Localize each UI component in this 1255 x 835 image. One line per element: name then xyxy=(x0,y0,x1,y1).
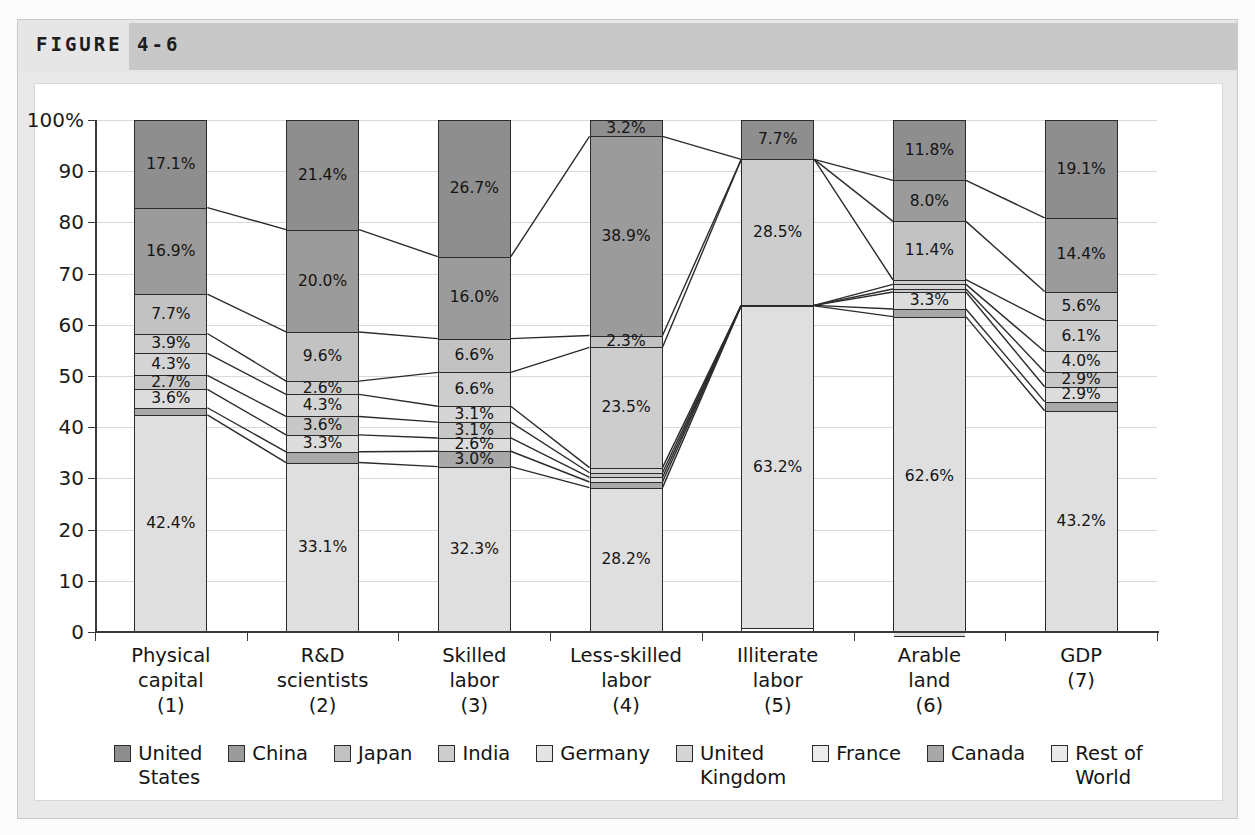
legend-item[interactable]: Japan xyxy=(334,742,412,766)
legend-item[interactable]: United States xyxy=(114,742,202,790)
bar-stack[interactable]: 17.1%16.9%7.7%3.9%4.3%2.7%3.6%42.4% xyxy=(134,120,207,632)
segment-connector-line xyxy=(966,180,1045,217)
bar-segment[interactable]: 3.6% xyxy=(287,416,358,434)
segment-connector-line xyxy=(359,451,438,452)
bar-segment[interactable]: 16.9% xyxy=(135,208,206,295)
bar-segment[interactable]: 20.0% xyxy=(287,230,358,332)
segment-connector-line xyxy=(207,375,286,416)
bar-segment[interactable]: 3.3% xyxy=(894,292,965,309)
bar-segment[interactable]: 3.3% xyxy=(287,435,358,452)
bar-segment[interactable]: 23.5% xyxy=(591,347,662,467)
bar-segment[interactable]: 5.6% xyxy=(1046,292,1117,321)
bar-segment[interactable] xyxy=(894,309,965,317)
bar-segment[interactable]: 4.0% xyxy=(1046,351,1117,371)
bar-segment-value-label: 11.4% xyxy=(905,243,954,259)
legend-swatch-icon xyxy=(676,745,693,762)
bar-segment[interactable]: 2.9% xyxy=(1046,387,1117,402)
bar-segment-value-label: 3.9% xyxy=(151,336,190,352)
bar-segment[interactable]: 7.7% xyxy=(742,120,813,159)
bar-segment[interactable]: 33.1% xyxy=(287,463,358,632)
bar-segment[interactable]: 6.6% xyxy=(439,372,510,406)
y-axis-tick xyxy=(88,274,95,275)
segment-connector-line xyxy=(511,136,590,256)
bar-segment[interactable]: 2.3% xyxy=(591,336,662,348)
x-axis-tick xyxy=(1005,633,1006,641)
y-axis-tick xyxy=(88,120,95,121)
legend-item[interactable]: Canada xyxy=(927,742,1025,766)
bar-stack[interactable]: 11.8%8.0%11.4%3.3%62.6% xyxy=(893,120,966,632)
segment-connector-line xyxy=(966,289,1045,372)
legend-swatch-icon xyxy=(114,745,131,762)
segment-connector-line xyxy=(511,467,590,488)
bar-segment[interactable]: 14.4% xyxy=(1046,218,1117,292)
segment-connector-line xyxy=(663,305,742,477)
bar-segment[interactable] xyxy=(135,408,206,415)
bar-segment[interactable]: 19.1% xyxy=(1046,120,1117,218)
bar-segment[interactable]: 6.1% xyxy=(1046,320,1117,351)
bar-segment-value-label: 3.0% xyxy=(455,452,494,468)
bar-segment[interactable]: 62.6% xyxy=(894,317,965,638)
bar-segment[interactable]: 43.2% xyxy=(1046,411,1117,632)
bar-segment[interactable]: 3.9% xyxy=(135,334,206,354)
legend-item[interactable]: India xyxy=(438,742,510,766)
bar-segment[interactable]: 7.7% xyxy=(135,294,206,333)
bar-stack[interactable]: 19.1%14.4%5.6%6.1%4.0%2.9%2.9%43.2% xyxy=(1045,120,1118,632)
legend-label: China xyxy=(252,742,308,766)
bar-segment[interactable]: 8.0% xyxy=(894,180,965,221)
bar-segment[interactable]: 3.2% xyxy=(591,120,662,136)
bar-segment-value-label: 38.9% xyxy=(601,229,650,245)
figure-frame: FIGURE 4-6 0102030405060708090100% 17.1%… xyxy=(17,19,1238,819)
bar-segment[interactable]: 9.6% xyxy=(287,332,358,381)
x-axis-tick xyxy=(702,633,703,641)
bar-segment[interactable]: 2.7% xyxy=(135,375,206,389)
bar-segment[interactable]: 17.1% xyxy=(135,120,206,208)
legend-item[interactable]: France xyxy=(812,742,901,766)
bar-segment[interactable]: 28.2% xyxy=(591,488,662,632)
bar-segment[interactable] xyxy=(287,452,358,463)
bar-segment[interactable]: 42.4% xyxy=(135,415,206,632)
legend-item[interactable]: Rest of World xyxy=(1051,742,1142,790)
bar-segment[interactable]: 28.5% xyxy=(742,159,813,305)
segment-connector-line xyxy=(511,451,590,482)
y-axis-tick-label: 80 xyxy=(59,210,84,234)
legend-label: Rest of World xyxy=(1075,742,1142,790)
bar-segment[interactable] xyxy=(1046,402,1117,411)
bar-segment[interactable]: 16.0% xyxy=(439,257,510,339)
segment-connector-line xyxy=(663,305,742,467)
segment-connector-line xyxy=(814,289,893,305)
bar-segment-value-label: 4.3% xyxy=(151,357,190,373)
bar-segment-value-label: 6.1% xyxy=(1061,329,1100,345)
bar-segment[interactable]: 2.6% xyxy=(287,381,358,394)
bar-stack[interactable]: 26.7%16.0%6.6%6.6%3.1%3.1%2.6%3.0%32.3% xyxy=(438,120,511,632)
segment-connector-line xyxy=(207,208,286,230)
bar-segment[interactable]: 32.3% xyxy=(439,467,510,632)
bar-stack[interactable]: 7.7%28.5%63.2% xyxy=(741,120,814,632)
bar-segment[interactable]: 11.8% xyxy=(894,120,965,180)
bar-segment[interactable]: 3.6% xyxy=(135,389,206,407)
bar-stack[interactable]: 3.2%38.9%2.3%23.5%28.2% xyxy=(590,120,663,632)
bar-segment[interactable]: 11.4% xyxy=(894,221,965,279)
legend-item[interactable]: Germany xyxy=(536,742,650,766)
figure-header: FIGURE 4-6 xyxy=(18,20,1237,73)
bar-segment-value-label: 33.1% xyxy=(298,540,347,556)
bar-segment[interactable]: 21.4% xyxy=(287,120,358,230)
segment-connector-line xyxy=(814,159,893,221)
legend-item[interactable]: United Kingdom xyxy=(676,742,786,790)
y-axis-tick-label: 50 xyxy=(59,364,84,388)
legend-item[interactable]: China xyxy=(228,742,308,766)
bar-segment[interactable]: 26.7% xyxy=(439,120,510,257)
bar-segment-value-label: 3.3% xyxy=(910,293,949,309)
y-axis-tick-label: 10 xyxy=(59,569,84,593)
bar-segment-value-label: 28.5% xyxy=(753,225,802,241)
bar-stack[interactable]: 21.4%20.0%9.6%2.6%4.3%3.6%3.3%33.1% xyxy=(286,120,359,632)
bar-segment[interactable]: 38.9% xyxy=(591,136,662,335)
bar-segment[interactable]: 3.1% xyxy=(439,406,510,422)
bar-segment[interactable]: 3.0% xyxy=(439,451,510,466)
legend-swatch-icon xyxy=(927,745,944,762)
segment-connector-line xyxy=(511,422,590,473)
segment-connector-line xyxy=(207,415,286,463)
bar-segment[interactable]: 63.2% xyxy=(742,306,813,630)
bar-segment[interactable]: 4.3% xyxy=(287,394,358,416)
bar-segment[interactable]: 6.6% xyxy=(439,339,510,373)
bar-segment-value-label: 2.9% xyxy=(1061,387,1100,403)
